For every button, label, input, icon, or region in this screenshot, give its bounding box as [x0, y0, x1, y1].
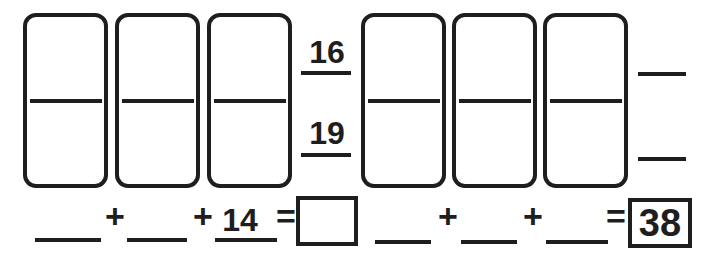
right-eq-plus2: + — [519, 199, 547, 233]
domino-3[interactable] — [207, 13, 292, 188]
domino-5-divider — [459, 99, 531, 103]
left-top-halves-sum-value: 16 — [299, 36, 355, 68]
domino-2[interactable] — [115, 13, 200, 188]
domino-6-divider — [550, 99, 622, 103]
domino-addition-worksheet: 16 19 + + 14 = + + = 38 — [0, 0, 718, 253]
right-eq-answer-value: 38 — [639, 204, 681, 242]
right-top-halves-sum-line[interactable] — [638, 72, 686, 76]
left-eq-answer-box[interactable] — [296, 196, 358, 246]
domino-2-divider — [122, 99, 194, 103]
domino-6[interactable] — [543, 13, 628, 188]
left-eq-equals: = — [274, 199, 298, 233]
domino-5[interactable] — [452, 13, 537, 188]
domino-1-divider — [30, 99, 102, 103]
left-eq-plus1: + — [101, 199, 129, 233]
left-eq-addend3-line — [215, 238, 277, 242]
left-eq-addend2-blank[interactable] — [127, 238, 187, 242]
left-eq-addend3-value: 14 — [210, 204, 270, 236]
right-eq-addend3-blank[interactable] — [546, 240, 608, 244]
domino-1[interactable] — [23, 13, 108, 188]
left-eq-addend1-blank[interactable] — [35, 238, 101, 242]
right-eq-addend2-blank[interactable] — [461, 240, 517, 244]
left-bottom-halves-sum-value: 19 — [299, 117, 355, 149]
right-eq-plus1: + — [434, 199, 462, 233]
left-bottom-halves-sum-line[interactable] — [301, 153, 351, 157]
right-eq-answer-box[interactable]: 38 — [628, 198, 692, 248]
right-bottom-halves-sum-line[interactable] — [638, 157, 686, 161]
left-top-halves-sum-line[interactable] — [301, 71, 351, 75]
right-eq-addend1-blank[interactable] — [375, 240, 431, 244]
domino-4-divider — [368, 99, 440, 103]
right-eq-equals: = — [604, 199, 628, 233]
domino-4[interactable] — [361, 13, 446, 188]
domino-3-divider — [214, 99, 286, 103]
